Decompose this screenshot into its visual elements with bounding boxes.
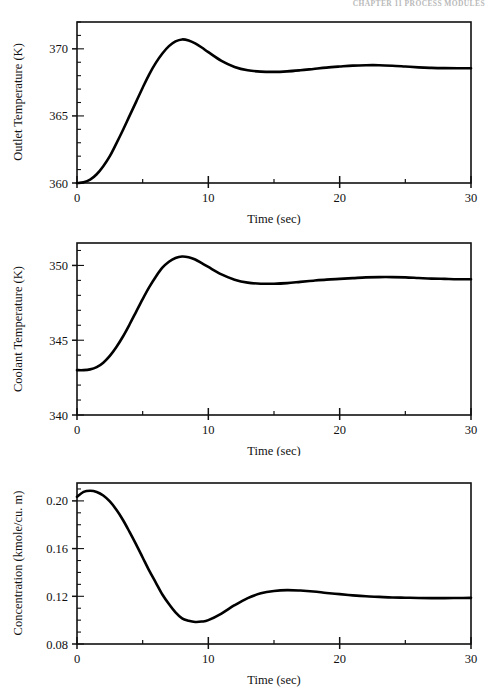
data-curve xyxy=(77,491,471,622)
x-tick-label: 10 xyxy=(202,191,215,205)
y-tick-label: 360 xyxy=(49,177,68,191)
x-tick-label: 30 xyxy=(465,423,478,437)
plot-svg-concentration: 0.080.120.160.200102030Time (sec)Concent… xyxy=(0,460,491,694)
x-tick-label: 0 xyxy=(74,652,80,666)
plot-svg-coolant-temperature: 3403453500102030Time (sec)Coolant Temper… xyxy=(0,228,491,456)
x-tick-label: 20 xyxy=(333,191,346,205)
x-axis-title: Time (sec) xyxy=(247,673,300,687)
y-tick-label: 365 xyxy=(49,109,68,123)
y-tick-label: 0.16 xyxy=(46,542,68,556)
figure-page: CHAPTER 11 PROCESS MODULES 3603653700102… xyxy=(0,0,491,694)
y-tick-label: 345 xyxy=(49,334,68,348)
x-tick-label: 0 xyxy=(74,191,80,205)
plot-frame xyxy=(77,243,471,415)
y-tick-label: 0.08 xyxy=(46,638,68,652)
x-tick-label: 10 xyxy=(202,423,215,437)
y-tick-label: 0.12 xyxy=(46,590,68,604)
x-tick-label: 30 xyxy=(465,652,478,666)
y-tick-label: 340 xyxy=(49,409,68,423)
chart-outlet-temperature: 3603653700102030Time (sec)Outlet Tempera… xyxy=(0,0,491,225)
x-tick-label: 0 xyxy=(74,423,80,437)
y-axis-title: Coolant Temperature (K) xyxy=(11,266,25,392)
y-tick-label: 370 xyxy=(49,42,68,56)
chart-coolant-temperature: 3403453500102030Time (sec)Coolant Temper… xyxy=(0,228,491,456)
x-axis-title: Time (sec) xyxy=(247,212,300,225)
y-tick-label: 0.20 xyxy=(46,494,68,508)
plot-svg-outlet-temperature: 3603653700102030Time (sec)Outlet Tempera… xyxy=(0,0,491,225)
plot-frame xyxy=(77,483,471,644)
data-curve xyxy=(77,39,471,183)
chart-concentration: 0.080.120.160.200102030Time (sec)Concent… xyxy=(0,460,491,694)
x-tick-label: 20 xyxy=(333,423,346,437)
data-curve xyxy=(77,256,471,370)
y-tick-label: 350 xyxy=(49,259,68,273)
y-axis-title: Concentration (kmole/cu. m) xyxy=(11,491,25,636)
y-axis-title: Outlet Temperature (K) xyxy=(11,43,25,161)
x-tick-label: 10 xyxy=(202,652,215,666)
x-tick-label: 20 xyxy=(333,652,346,666)
x-axis-title: Time (sec) xyxy=(247,444,300,456)
x-tick-label: 30 xyxy=(465,191,478,205)
